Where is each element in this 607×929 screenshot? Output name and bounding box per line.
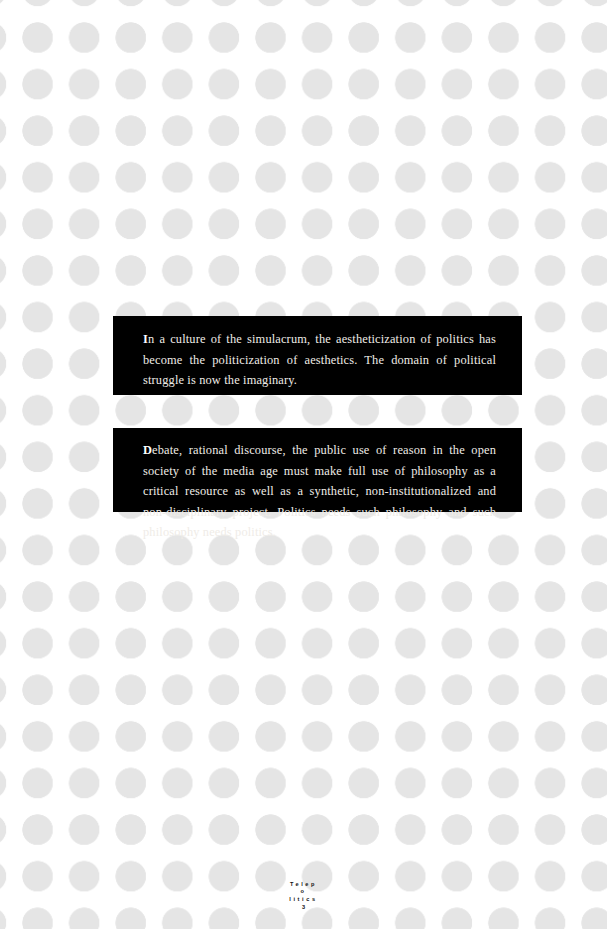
page-canvas: In a culture of the simulacrum, the aest…: [0, 0, 607, 929]
page-number: 3: [0, 903, 607, 911]
footer-line-1: Telep: [0, 881, 607, 888]
quote-panel-2: Debate, rational discourse, the public u…: [113, 428, 522, 512]
footer-wordmark: Telep o litics 3: [0, 881, 607, 911]
quote-panel-1: In a culture of the simulacrum, the aest…: [113, 316, 522, 395]
quote-text-2: Debate, rational discourse, the public u…: [143, 440, 496, 543]
quote-text-1: In a culture of the simulacrum, the aest…: [143, 329, 496, 391]
quote-dropcap-2: D: [143, 443, 152, 457]
quote-body-2: ebate, rational discourse, the public us…: [143, 443, 496, 539]
footer-line-2: o: [0, 888, 607, 895]
quote-body-1: n a culture of the simulacrum, the aesth…: [143, 332, 496, 387]
footer-line-3: litics: [0, 896, 607, 903]
